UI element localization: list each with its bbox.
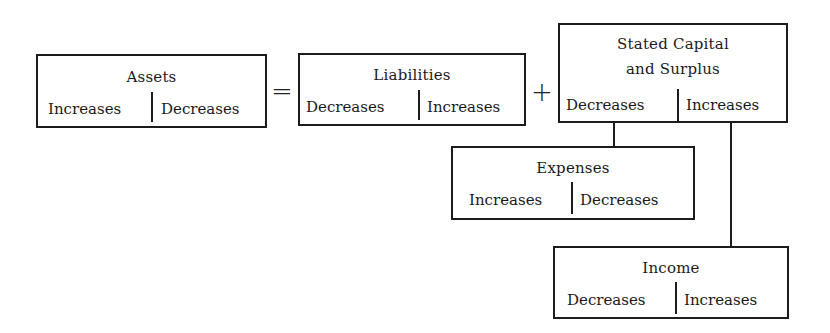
equals-sign: = (271, 78, 293, 104)
capital-decreases-label: Decreases (566, 96, 645, 114)
capital-divider (677, 89, 679, 123)
capital-increases-label: Increases (686, 96, 759, 114)
income-increases-label: Increases (684, 291, 757, 309)
liabilities-divider (418, 90, 420, 120)
assets-account-box: Assets Increases Decreases (36, 54, 267, 128)
income-decreases-label: Decreases (567, 291, 646, 309)
liabilities-increases-label: Increases (427, 98, 500, 116)
connector-capital-to-expenses (613, 122, 615, 147)
expenses-decreases-label: Decreases (580, 191, 659, 209)
capital-title-line1: Stated Capital (560, 35, 786, 53)
income-divider (675, 282, 677, 314)
capital-account-box: Stated Capital and Surplus Decreases Inc… (558, 23, 788, 123)
income-title: Income (555, 259, 787, 277)
capital-title-line2: and Surplus (560, 60, 786, 78)
connector-capital-to-income (730, 122, 732, 247)
assets-decreases-label: Decreases (161, 100, 240, 118)
expenses-increases-label: Increases (469, 191, 542, 209)
assets-title: Assets (38, 68, 265, 86)
assets-divider (151, 92, 153, 122)
assets-increases-label: Increases (48, 100, 121, 118)
expenses-account-box: Expenses Increases Decreases (451, 146, 695, 220)
expenses-title: Expenses (453, 159, 693, 177)
liabilities-decreases-label: Decreases (306, 98, 385, 116)
income-account-box: Income Decreases Increases (553, 246, 789, 319)
liabilities-account-box-full: Liabilities Decreases Increases (298, 53, 526, 126)
expenses-divider (571, 182, 573, 214)
liabilities-title: Liabilities (300, 66, 524, 84)
plus-sign: + (531, 79, 553, 105)
